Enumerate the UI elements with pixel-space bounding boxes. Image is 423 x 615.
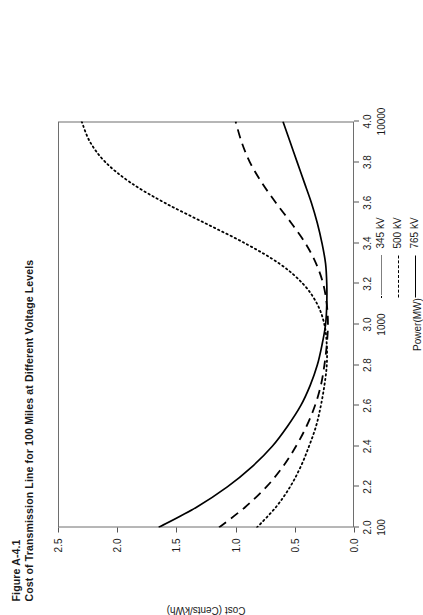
x-tick-label: 4.0 [362,114,373,128]
curve-345-kv [82,121,327,527]
legend-key-765kv [410,255,420,297]
x-decade-label: 1000 [376,313,387,335]
x-axis-title: Power(MW) [412,121,423,527]
legend-item: 500 kV [389,217,406,297]
figure-title-block: Figure A-4.1 Cost of Transmission Line f… [10,259,37,601]
y-tick-mark [58,527,59,532]
x-tick-label: 3.8 [362,155,373,169]
legend: 345 kV500 kV765 kV [372,217,423,297]
x-tick-label: 2.2 [362,479,373,493]
x-tick-mark [354,201,359,202]
y-tick-label: 2.5 [53,538,64,552]
legend-item-label: 500 kV [392,217,403,248]
y-tick-mark [295,527,296,532]
x-decade-label: 10000 [376,107,387,135]
plot-panel: 2.02.22.42.62.83.03.23.43.63.84.01001000… [58,121,354,527]
y-tick-label: 2.0 [112,538,123,552]
y-tick-label: 0.0 [349,538,360,552]
y-tick-mark [176,527,177,532]
x-tick-label: 3.6 [362,195,373,209]
x-tick-mark [354,445,359,446]
y-tick-label: 0.5 [289,538,300,552]
y-tick-mark [354,527,355,532]
legend-key-345kv [376,255,386,297]
legend-item-label: 765 kV [409,217,420,248]
x-tick-label: 3.0 [362,317,373,331]
legend-key-500kv [393,255,403,297]
x-tick-mark [354,282,359,283]
x-tick-mark [354,364,359,365]
x-tick-label: 2.4 [362,439,373,453]
legend-item: 345 kV [372,217,389,297]
figure-number: Figure A-4.1 [10,259,23,601]
curve-500-kv [219,121,328,527]
y-tick-mark [117,527,118,532]
y-tick-label: 1.0 [230,538,241,552]
curve-765-kv [159,121,327,527]
y-tick-mark [236,527,237,532]
plot-curves [58,121,354,527]
x-decade-label: 100 [376,519,387,536]
x-tick-mark [354,120,359,121]
y-axis-title: Cost (Cents/kWh) [58,601,354,615]
figure-caption: Cost of Transmission Line for 100 Miles … [23,259,36,601]
legend-item: 765 kV [406,217,423,297]
x-tick-mark [354,161,359,162]
x-tick-mark [354,323,359,324]
legend-item-label: 345 kV [375,217,386,248]
x-tick-mark [354,242,359,243]
x-tick-label: 2.8 [362,358,373,372]
x-tick-mark [354,485,359,486]
x-tick-label: 2.6 [362,398,373,412]
x-tick-label: 2.0 [362,520,373,534]
y-tick-label: 1.5 [171,538,182,552]
x-tick-mark [354,404,359,405]
